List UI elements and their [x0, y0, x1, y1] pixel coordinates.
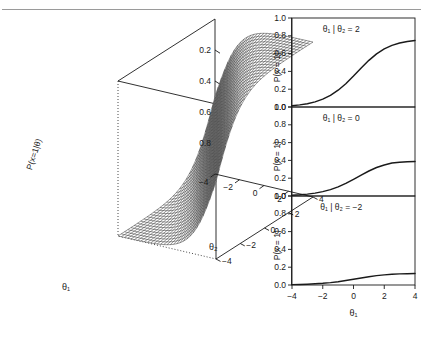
theta2-axis-tick	[216, 259, 221, 261]
y-tick-label: 0.2	[274, 85, 286, 94]
theta2-axis-tick	[240, 244, 245, 246]
z-tick-label: 0.6	[199, 108, 211, 117]
x-axis-title: θ₁	[349, 309, 357, 318]
sigmoid-curve	[292, 40, 415, 105]
z-axis-tick	[215, 50, 220, 53]
x-tick-label: 0	[351, 292, 356, 301]
theta2-axis-tick	[265, 228, 270, 230]
y-axis-title: P(x = 1)	[273, 230, 282, 260]
theta1-tick-label: −4	[199, 178, 209, 187]
z-tick-label: 0.4	[199, 77, 211, 86]
z-tick-label: 0.8	[199, 139, 211, 148]
sigmoid-curve	[292, 161, 415, 195]
y-tick-label: 0.0	[274, 281, 286, 290]
y-tick-label: 0.2	[274, 174, 286, 183]
theta2-tick-label: −4	[222, 257, 232, 266]
x-tick-label: 4	[413, 292, 418, 301]
theta1-axis-tick	[235, 180, 240, 183]
y-tick-label: 0.8	[274, 209, 286, 218]
theta2-tick-label: 2	[295, 210, 300, 219]
theta2-axis-tick	[313, 197, 318, 199]
y-tick-label: 0.8	[274, 31, 286, 40]
panel-annotation: θ₁ | θ₂ = 0	[323, 114, 360, 123]
theta2-axis-title: θ₂	[209, 243, 218, 252]
y-tick-label: 0.2	[274, 263, 286, 272]
figure-svg	[0, 0, 423, 344]
x-tick-label: −2	[318, 292, 328, 301]
x-tick-label: −4	[287, 292, 297, 301]
theta2-tick-label: −2	[246, 241, 256, 250]
y-tick-label: 1.0	[274, 192, 286, 201]
y-tick-label: 1.0	[274, 14, 286, 23]
y-tick-label: 0.8	[274, 120, 286, 129]
y-axis-title: P(x = 1)	[273, 141, 282, 171]
figure-canvas: 0.80.60.40.2P(x=1|θ)−4−202θ₁−4−2024θ₂1.0…	[0, 0, 423, 344]
sigmoid-curve	[292, 274, 415, 285]
theta1-tick-label: 0	[253, 189, 258, 198]
y-tick-label: 1.0	[274, 103, 286, 112]
panel-annotation: θ₁ | θ₂ = −2	[320, 203, 362, 212]
box-top-edge	[118, 19, 216, 104]
panel-annotation: θ₁ | θ₂ = 2	[323, 25, 360, 34]
y-axis-title: P(x = 1)	[273, 52, 282, 82]
theta1-tick-label: −2	[223, 183, 233, 192]
theta1-axis-tick	[260, 186, 265, 189]
x-tick-label: 2	[382, 292, 387, 301]
z-tick-label: 0.2	[199, 46, 211, 55]
theta1-axis-title: θ₁	[62, 283, 70, 292]
surface-plot-3d	[118, 19, 318, 261]
conditional-curves-group	[288, 18, 415, 289]
